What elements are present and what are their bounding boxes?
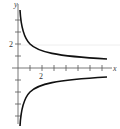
x-tick-label: 2: [39, 72, 43, 81]
y-tick-label: 2: [9, 40, 13, 49]
lower-curve: [20, 77, 107, 126]
x-axis-label: x: [112, 64, 117, 73]
y-axis-label: y: [13, 0, 18, 9]
upper-curve: [20, 10, 107, 59]
graph: y x 2 2: [0, 0, 120, 129]
